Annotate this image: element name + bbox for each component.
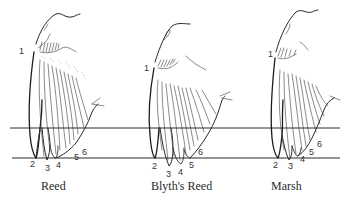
wing-drawings: 1 2 3 4 5 6 (0, 0, 355, 204)
blyths-reed-caption: Blyth's Reed (151, 179, 212, 194)
blyths-label-3: 3 (166, 169, 171, 179)
reed-label-1: 1 (19, 46, 24, 56)
marsh-label-6: 6 (317, 139, 322, 149)
blyths-label-4: 4 (178, 167, 183, 177)
marsh-label-4: 4 (300, 154, 305, 164)
reed-label-6: 6 (82, 147, 87, 157)
reed-caption: Reed (41, 179, 66, 194)
reed-label-2: 2 (30, 159, 35, 169)
reed-label-5: 5 (74, 152, 79, 162)
blyths-reed-wing-drawing: 1 2 3 4 5 6 (144, 24, 232, 180)
blyths-label-6: 6 (198, 147, 203, 157)
reed-label-4: 4 (56, 160, 61, 170)
marsh-label-5: 5 (309, 147, 314, 157)
marsh-label-2: 2 (273, 160, 278, 170)
marsh-label-3: 3 (288, 161, 293, 171)
reed-label-3: 3 (45, 163, 50, 173)
marsh-label-1: 1 (268, 49, 273, 59)
blyths-label-5: 5 (189, 160, 194, 170)
marsh-caption: Marsh (271, 179, 302, 194)
blyths-label-2: 2 (152, 161, 157, 171)
blyths-label-1: 1 (144, 63, 149, 73)
reed-wing-drawing: 1 2 3 4 5 6 (19, 14, 104, 173)
wing-formula-figure: 1 2 3 4 5 6 (0, 0, 355, 204)
marsh-wing-drawing: 1 2 3 4 5 6 (268, 10, 340, 171)
